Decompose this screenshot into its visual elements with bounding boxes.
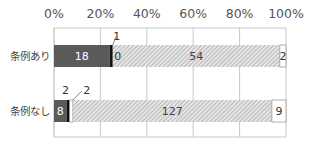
stacked-bar-chart: 0%20%40%60%80%100% 条例あり条例なし 181054282212… [0,0,315,148]
x-tick-label: 20% [87,6,115,21]
data-label: 2 [279,50,286,63]
data-label: 8 [57,105,64,118]
x-tick-label: 60% [179,6,207,21]
category-label: 条例あり [10,50,50,62]
category-label: 条例なし [10,105,50,117]
x-axis-ticks: 0%20%40%60%80%100% [44,6,304,21]
bar-segment-1-2 [110,45,113,67]
x-tick-label: 0% [44,6,64,21]
data-label: 1 [113,30,120,43]
x-tick-label: 100% [268,6,304,21]
bar-segment-2-3 [70,100,73,122]
bar-segment-2-2 [67,100,70,122]
data-label: 2 [83,84,90,97]
data-label: 2 [62,84,69,97]
x-tick-label: 40% [133,6,161,21]
data-label: 18 [75,50,89,63]
data-label: 54 [189,50,203,63]
x-tick-label: 80% [226,6,254,21]
data-label: 0 [114,50,121,63]
data-label: 9 [275,105,282,118]
leader-line [73,91,82,100]
y-axis-categories: 条例あり条例なし [10,50,50,117]
data-label: 127 [162,105,183,118]
